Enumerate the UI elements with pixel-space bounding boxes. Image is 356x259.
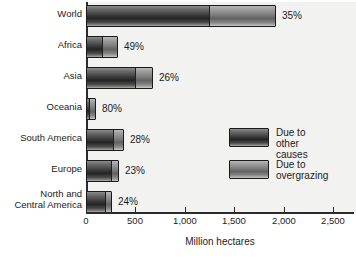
category-label-africa: Africa: [0, 40, 82, 51]
bar-segment-overgrazing: [105, 192, 111, 212]
bar-value-label: 49%: [124, 41, 144, 52]
stacked-bar: [86, 5, 276, 27]
bar-segment-other-causes: [87, 192, 105, 212]
bar-segment-other-causes: [87, 37, 102, 57]
legend-item-other-causes: Due to other causes: [229, 128, 308, 160]
bar-segment-overgrazing: [102, 37, 117, 57]
bars-layer: 35% 49% 26% 80%: [86, 2, 354, 213]
x-axis-tick-label-0: 0: [83, 215, 88, 226]
bar-value-label: 24%: [118, 196, 138, 207]
legend-swatch-icon: [229, 160, 269, 179]
x-axis-tick-label-1500: 1,500: [222, 215, 246, 226]
category-label-north-central-america: North and Central America: [0, 189, 82, 210]
x-axis-tick: [333, 207, 334, 212]
category-label-europe: Europe: [0, 164, 82, 175]
bar-segment-overgrazing: [111, 161, 118, 181]
category-label-oceania: Oceania: [0, 102, 82, 113]
x-axis-tick: [86, 207, 87, 212]
chart-container: World Africa Asia Oceania South America …: [0, 0, 356, 259]
bar-segment-other-causes: [87, 161, 111, 181]
bar-segment-overgrazing: [113, 130, 123, 150]
bar-segment-other-causes: [87, 68, 135, 88]
legend-label: Due to other causes: [276, 127, 308, 160]
stacked-bar: [86, 129, 124, 151]
x-axis-tick: [135, 207, 136, 212]
bar-value-label: 23%: [125, 165, 145, 176]
bar-segment-overgrazing: [135, 68, 152, 88]
bar-segment-overgrazing: [89, 99, 95, 119]
bar-value-label: 26%: [159, 72, 179, 83]
category-label-south-america: South America: [0, 133, 82, 144]
bar-value-label: 80%: [102, 103, 122, 114]
legend-label: Due to overgrazing: [276, 159, 328, 181]
bar-segment-other-causes: [87, 130, 113, 150]
stacked-bar: [86, 67, 153, 89]
stacked-bar: [86, 98, 96, 120]
bar-value-label: 28%: [130, 134, 150, 145]
category-label-world: World: [0, 9, 82, 20]
stacked-bar: [86, 36, 118, 58]
x-axis-tick-label-2500: 2,500: [321, 215, 345, 226]
x-axis-tick: [234, 207, 235, 212]
x-axis-title: Million hectares: [86, 236, 354, 247]
bar-segment-other-causes: [87, 6, 209, 26]
stacked-bar: [86, 191, 112, 213]
x-axis-tick-label-2000: 2,000: [272, 215, 296, 226]
x-axis-tick-label-500: 500: [127, 215, 143, 226]
x-axis-tick: [284, 207, 285, 212]
x-axis-tick-label-1000: 1,000: [173, 215, 197, 226]
legend-swatch-icon: [229, 128, 269, 147]
bar-value-label: 35%: [282, 10, 302, 21]
x-axis-tick: [185, 207, 186, 212]
category-axis-labels: World Africa Asia Oceania South America …: [0, 2, 82, 213]
stacked-bar: [86, 160, 119, 182]
category-label-asia: Asia: [0, 71, 82, 82]
legend-item-overgrazing: Due to overgrazing: [229, 160, 328, 181]
x-axis-line: [86, 212, 354, 214]
bar-segment-overgrazing: [209, 6, 275, 26]
